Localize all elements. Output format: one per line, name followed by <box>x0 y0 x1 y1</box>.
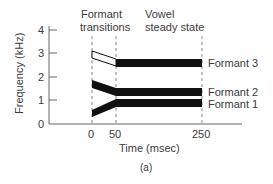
region-label-steady-line2: steady state <box>145 21 204 33</box>
region-label-transitions-line1: Formant <box>81 8 122 20</box>
y-ticks <box>49 30 57 100</box>
x-axis-label: Time (msec) <box>119 142 180 154</box>
formant3-steady-bar <box>116 59 202 67</box>
y-tick-label: 0 <box>38 118 44 130</box>
formant2-label: Formant 2 <box>208 86 258 98</box>
region-label-transitions-line2: transitions <box>80 21 130 33</box>
time-marker-lines <box>92 36 202 124</box>
y-tick-label: 2 <box>38 71 44 83</box>
x-tick-label: 250 <box>192 128 210 140</box>
x-tick-label: 0 <box>88 128 94 140</box>
y-axis-label: Frequency (kHz) <box>13 33 25 114</box>
y-tick-label: 1 <box>38 94 44 106</box>
formant1-transition <box>92 99 116 117</box>
formant1-label: Formant 1 <box>208 98 258 110</box>
formant3-label: Formant 3 <box>208 57 258 69</box>
formant2-transition <box>92 80 116 96</box>
x-tick-label: 50 <box>109 128 121 140</box>
y-tick-label: 3 <box>38 47 44 59</box>
formant1-steady-bar <box>116 99 202 107</box>
formant2-steady-bar <box>116 88 202 96</box>
y-tick-label: 4 <box>38 24 44 36</box>
panel-label: (a) <box>140 162 152 174</box>
formant3-transition <box>92 51 116 66</box>
region-label-steady-line1: Vowel <box>145 8 174 20</box>
